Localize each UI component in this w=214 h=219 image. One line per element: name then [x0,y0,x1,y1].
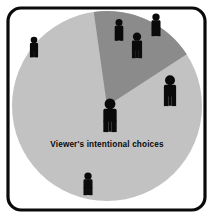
person-head-icon [152,13,159,20]
figure-root: Viewer's intentional choices [0,0,214,219]
person-figure-right [164,75,176,106]
person-head-icon [105,98,116,109]
person-leg-left-icon [164,96,169,106]
person-leg-left-icon [151,29,154,37]
person-figure-top-right [151,13,160,36]
person-leg-right-icon [120,34,123,41]
person-figure-wedge-left [115,19,124,41]
person-head-icon [116,19,123,26]
person-figure-bottom [83,172,92,195]
person-leg-left-icon [132,50,136,58]
person-leg-right-icon [157,29,160,37]
person-leg-right-icon [138,50,142,58]
person-figure-wedge-right [132,33,142,59]
person-leg-left-icon [115,34,118,41]
person-leg-left-icon [83,188,86,196]
pie-center-label: Viewer's intentional choices [50,140,164,149]
person-head-icon [84,172,91,179]
person-head-icon [31,37,38,44]
person-figure-left [30,37,38,58]
person-leg-right-icon [89,188,92,196]
person-leg-right-icon [171,96,176,106]
person-leg-left-icon [30,51,33,58]
person-leg-left-icon [103,121,108,132]
pie-diagram: Viewer's intentional choices [0,0,214,219]
person-head-icon [165,75,175,85]
person-head-icon [133,33,141,41]
person-leg-right-icon [35,51,38,58]
person-figure-center [103,98,116,132]
person-leg-right-icon [112,121,117,132]
